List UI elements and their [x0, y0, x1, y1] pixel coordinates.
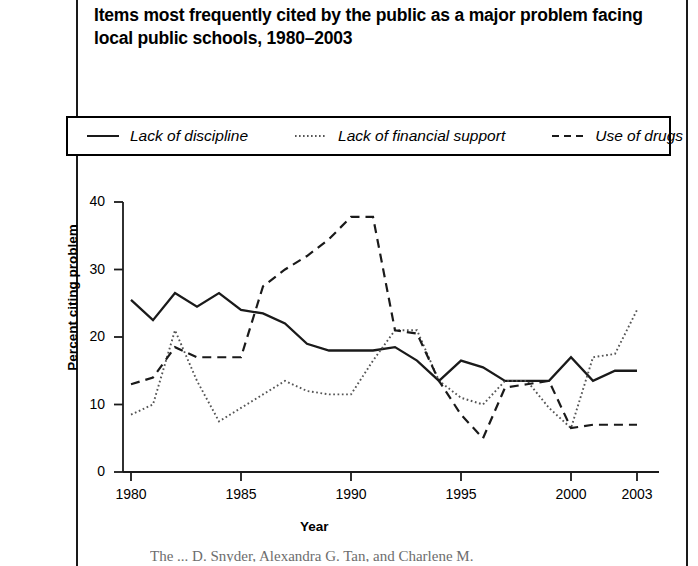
- x-tick-label: 1985: [211, 486, 271, 502]
- page-canvas: Items most frequently cited by the publi…: [0, 0, 698, 566]
- x-tick-label: 1990: [321, 486, 381, 502]
- y-axis-title: Percent citing problem: [65, 208, 80, 388]
- y-tick-label: 20: [73, 328, 105, 344]
- y-tick-label: 30: [73, 261, 105, 277]
- x-tick-label: 2003: [607, 486, 667, 502]
- x-tick-label: 1980: [101, 486, 161, 502]
- data-series: [131, 217, 637, 438]
- x-tick-label: 1995: [431, 486, 491, 502]
- series-line-use-of-drugs: [131, 217, 637, 438]
- y-tick-label: 40: [73, 193, 105, 209]
- x-axis-title: Year: [300, 519, 329, 534]
- y-tick-label: 10: [73, 396, 105, 412]
- series-line-lack-of-discipline: [131, 293, 637, 381]
- axes: [114, 202, 659, 481]
- line-chart-plot: [0, 0, 698, 566]
- x-tick-label: 2000: [541, 486, 601, 502]
- y-tick-label: 0: [73, 463, 105, 479]
- page-footer-text: The ... D. Snyder, Alexandra G. Tan, and…: [150, 548, 570, 562]
